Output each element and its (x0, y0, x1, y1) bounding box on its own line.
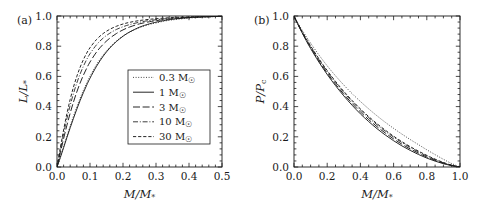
x-tick-label: 0.4 (181, 170, 198, 182)
y-tick-label: 0.0 (272, 161, 289, 173)
y-tick-label: 0.2 (272, 131, 289, 143)
x-tick-label: 0.8 (418, 170, 435, 182)
x-axis-label: M/M* (360, 187, 392, 202)
x-tick-label: 0.6 (385, 170, 402, 182)
panel-label: (a) (17, 14, 32, 27)
svg-text:M/M*: M/M* (123, 187, 155, 202)
y-tick-label: 0.8 (272, 40, 289, 52)
x-tick-label: 0.2 (319, 170, 336, 182)
svg-text:M/M*: M/M* (360, 187, 392, 202)
panel-label: (b) (254, 14, 270, 27)
y-tick-label: 0.4 (272, 100, 289, 112)
y-tick-label: 1.0 (35, 10, 52, 22)
figure-root: 0.00.10.20.30.40.50.00.20.40.60.81.0(a)M… (0, 0, 477, 218)
legend: 0.3 M☉1 M☉3 M☉10 M☉30 M☉ (128, 70, 210, 144)
y-tick-label: 0.2 (35, 131, 52, 143)
x-axis-label: M/M* (123, 187, 155, 202)
x-tick-label: 0.2 (115, 170, 132, 182)
x-tick-label: 0.4 (352, 170, 369, 182)
y-tick-label: 0.6 (35, 70, 52, 82)
y-tick-label: 0.8 (35, 40, 52, 52)
x-tick-label: 1.0 (452, 170, 469, 182)
y-tick-label: 0.0 (35, 161, 52, 173)
y-tick-label: 1.0 (272, 10, 289, 22)
x-tick-label: 0.5 (214, 170, 231, 182)
x-tick-label: 0.3 (148, 170, 165, 182)
x-tick-label: 0.1 (82, 170, 99, 182)
y-tick-label: 0.4 (35, 100, 52, 112)
y-tick-label: 0.6 (272, 70, 289, 82)
